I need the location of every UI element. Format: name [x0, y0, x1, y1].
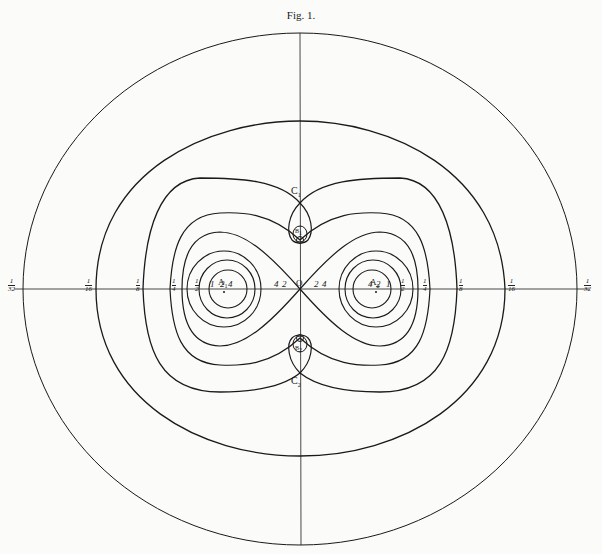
frac-right-1-16: 116: [507, 278, 516, 293]
label-C1: C1: [291, 186, 301, 198]
label-B2: B2: [295, 345, 302, 353]
frac-right-1-2: 12: [400, 278, 406, 293]
label-right-1: 1: [386, 280, 391, 289]
label-left-4b: 4: [274, 280, 279, 289]
label-left-2b: 2: [282, 280, 287, 289]
frac-left-1-4: 14: [171, 278, 177, 293]
label-right-2: 2: [314, 280, 319, 289]
frac-left-1-2: 12: [194, 278, 200, 293]
label-left-2: 2: [220, 280, 225, 289]
label-right-2b: 2: [376, 280, 381, 289]
frac-left-1-8: 18: [135, 278, 141, 293]
point-A1-dot: [223, 291, 225, 293]
frac-right-1-32: 132: [583, 278, 592, 293]
point-A2-dot: [375, 291, 377, 293]
label-right-4: 4: [322, 280, 327, 289]
frac-left-1-16: 116: [84, 278, 93, 293]
label-C2: C2: [291, 376, 301, 388]
label-left-4: 4: [228, 280, 233, 289]
label-B1: B1: [295, 228, 302, 236]
frac-right-1-4: 14: [422, 278, 428, 293]
frac-left-1-32: 132: [7, 278, 16, 293]
frac-right-1-8: 18: [458, 278, 464, 293]
label-O: O: [296, 279, 303, 288]
label-right-4b: 4: [368, 280, 373, 289]
loop-C2: [289, 335, 312, 373]
label-left-1: 1: [210, 280, 215, 289]
